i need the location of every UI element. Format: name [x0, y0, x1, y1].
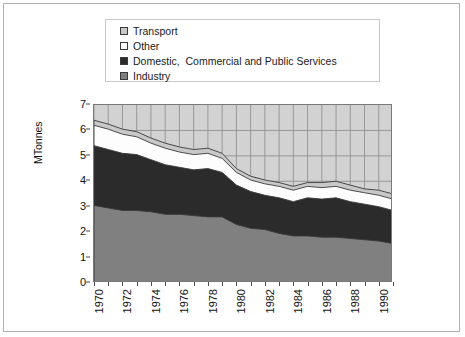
x-tick-mark	[236, 282, 237, 286]
y-tick-mark	[86, 282, 90, 283]
legend-label-transport: Transport	[133, 26, 178, 37]
y-axis-title: MTonnes	[32, 121, 44, 164]
x-tick-mark	[393, 282, 394, 286]
x-tick-label: 1974	[150, 289, 162, 313]
y-tick-mark	[86, 129, 90, 130]
y-tick-label: 2	[60, 225, 86, 237]
x-tick-mark	[122, 282, 123, 286]
legend-swatch-transport	[120, 27, 128, 35]
legend-item-domestic[interactable]: Domestic, Commercial and Public Services	[120, 54, 379, 68]
y-tick-mark	[86, 205, 90, 206]
x-tick-label: 1984	[292, 289, 304, 313]
x-tick-label: 1980	[235, 289, 247, 313]
chart-legend: Transport Other Domestic, Commercial and…	[105, 19, 380, 82]
plot-area	[93, 104, 392, 282]
legend-swatch-industry	[120, 72, 128, 80]
legend-item-industry[interactable]: Industry	[120, 69, 379, 83]
x-tick-mark	[208, 282, 209, 286]
x-tick-mark	[279, 282, 280, 286]
y-tick-label: 5	[60, 149, 86, 161]
x-tick-label: 1988	[349, 289, 361, 313]
x-tick-label: 1976	[178, 289, 190, 313]
x-tick-mark	[379, 282, 380, 286]
y-axis: 01234567	[64, 97, 90, 289]
y-tick-label: 0	[60, 276, 86, 288]
x-tick-mark	[194, 282, 195, 286]
y-tick-mark	[86, 104, 90, 105]
x-tick-mark	[265, 282, 266, 286]
x-tick-label: 1990	[378, 289, 390, 313]
y-tick-mark	[86, 256, 90, 257]
x-tick-mark	[108, 282, 109, 286]
stacked-area-chart	[93, 104, 392, 282]
legend-label-other: Other	[133, 41, 159, 52]
x-tick-mark	[94, 282, 95, 286]
x-tick-mark	[151, 282, 152, 286]
x-tick-label: 1972	[121, 289, 133, 313]
x-tick-mark	[322, 282, 323, 286]
x-tick-mark	[137, 282, 138, 286]
x-tick-mark	[350, 282, 351, 286]
y-tick-label: 3	[60, 200, 86, 212]
x-axis: 1970197219741976197819801982198419861988…	[93, 282, 393, 337]
legend-swatch-other	[120, 42, 128, 50]
x-tick-label: 1986	[321, 289, 333, 313]
y-tick-mark	[86, 231, 90, 232]
x-tick-mark	[251, 282, 252, 286]
y-tick-label: 1	[60, 251, 86, 263]
x-tick-mark	[179, 282, 180, 286]
y-tick-label: 6	[60, 123, 86, 135]
legend-item-other[interactable]: Other	[120, 39, 379, 53]
legend-item-transport[interactable]: Transport	[120, 24, 379, 38]
x-tick-mark	[222, 282, 223, 286]
x-tick-label: 1978	[207, 289, 219, 313]
x-tick-mark	[293, 282, 294, 286]
legend-swatch-domestic	[120, 57, 128, 65]
y-tick-label: 7	[60, 98, 86, 110]
figure-frame: Transport Other Domestic, Commercial and…	[3, 3, 460, 332]
legend-label-industry: Industry	[133, 71, 170, 82]
x-tick-label: 1982	[264, 289, 276, 313]
x-tick-mark	[336, 282, 337, 286]
x-tick-label: 1970	[93, 289, 105, 313]
x-tick-mark	[308, 282, 309, 286]
x-tick-mark	[365, 282, 366, 286]
y-tick-mark	[86, 180, 90, 181]
legend-label-domestic: Domestic, Commercial and Public Services	[133, 56, 337, 67]
y-tick-label: 4	[60, 174, 86, 186]
y-tick-mark	[86, 154, 90, 155]
x-tick-mark	[165, 282, 166, 286]
